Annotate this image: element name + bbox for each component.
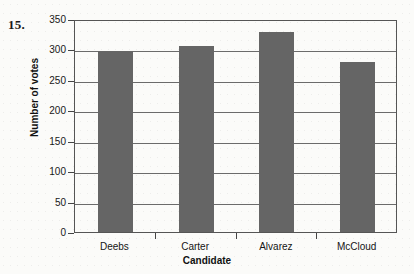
y-axis-tick-label: 150 <box>26 137 66 147</box>
plot-area <box>74 20 397 233</box>
y-axis-tick-label: 300 <box>26 45 66 55</box>
x-axis-tick-label: Deebs <box>69 241 159 252</box>
x-axis-tick <box>236 233 237 239</box>
bar-mccloud <box>340 62 375 232</box>
x-axis-tick <box>316 233 317 239</box>
y-axis-tick <box>68 172 74 173</box>
worksheet-page: 15. Number of votes 05010015020025030035… <box>0 0 414 274</box>
y-axis-tick <box>68 20 74 21</box>
y-axis-tick <box>68 81 74 82</box>
x-axis-tick-label: Carter <box>150 241 240 252</box>
y-axis-tick <box>68 203 74 204</box>
bar-chart: Number of votes 050100150200250300350 De… <box>0 0 414 274</box>
y-axis-tick <box>68 111 74 112</box>
y-axis-tick <box>68 233 74 234</box>
x-axis-tick-label: McCloud <box>312 241 402 252</box>
bar-carter <box>179 46 214 232</box>
y-axis-tick-label: 0 <box>26 228 66 238</box>
y-axis-tick-label: 250 <box>26 76 66 86</box>
x-axis-title: Candidate <box>0 255 414 266</box>
x-axis-tick-label: Alvarez <box>231 241 321 252</box>
y-axis-tick-label: 350 <box>26 15 66 25</box>
y-axis-tick-label: 100 <box>26 167 66 177</box>
y-axis-tick-label: 200 <box>26 106 66 116</box>
bar-alvarez <box>259 32 294 232</box>
y-axis-tick <box>68 142 74 143</box>
y-axis-tick-label: 50 <box>26 198 66 208</box>
bar-deebs <box>98 51 133 232</box>
y-axis-tick <box>68 50 74 51</box>
x-axis-tick <box>155 233 156 239</box>
